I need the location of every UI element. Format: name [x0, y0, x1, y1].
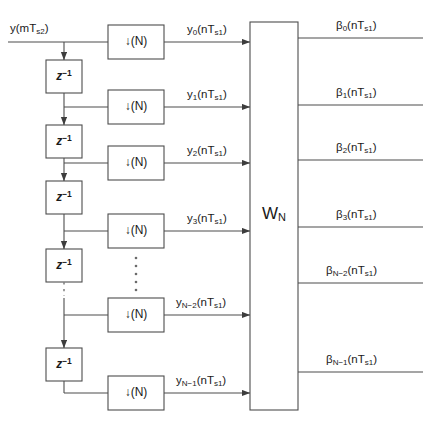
- output-label-y1: y1(nTs1): [187, 89, 227, 102]
- output-label-yN-1: yN−1(nTs1): [176, 375, 226, 388]
- downsampler-label-0: ↓(N): [108, 35, 164, 47]
- downsampler-label-4: ↓(N): [108, 308, 164, 320]
- beta-label-3: β3(nTs1): [336, 209, 377, 222]
- output-label-yN-2: yN−2(nTs1): [176, 297, 226, 310]
- beta-label-N-2: βN−2(nTs1): [326, 265, 377, 278]
- ellipsis-downsampler-column: [135, 257, 138, 292]
- wn-block-label: WN: [250, 205, 298, 223]
- delay-block-label-4: z−1: [46, 258, 82, 271]
- output-label-y0: y0(nTs1): [187, 24, 227, 37]
- downsampler-label-5: ↓(N): [108, 386, 164, 398]
- downsampler-label-3: ↓(N): [108, 224, 164, 236]
- downsampler-label-1: ↓(N): [108, 100, 164, 112]
- delay-block-label-2: z−1: [46, 134, 82, 147]
- beta-label-N-1: βN−1(nTs1): [326, 354, 377, 367]
- beta-label-0: β0(nTs1): [336, 20, 377, 33]
- output-label-y2: y2(nTs1): [187, 145, 227, 158]
- input-signal-label: y(mTs2): [10, 23, 48, 36]
- output-label-y3: y3(nTs1): [187, 213, 227, 226]
- beta-label-2: β2(nTs1): [336, 142, 377, 155]
- delay-block-label-3: z−1: [46, 190, 82, 203]
- downsampler-label-2: ↓(N): [108, 156, 164, 168]
- beta-label-1: β1(nTs1): [336, 87, 377, 100]
- filter-bank-diagram: y(mTs2) z−1 z−1 z−1 z−1 z−1 ↓(N) ↓(N) ↓(…: [0, 0, 431, 431]
- delay-block-label-1: z−1: [46, 69, 82, 82]
- delay-block-label-5: z−1: [46, 357, 82, 370]
